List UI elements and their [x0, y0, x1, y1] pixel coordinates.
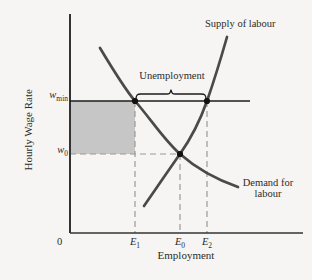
y-tick-w-min-subscript: min [56, 94, 68, 103]
demand-curve-label-line1: Demand for [243, 177, 293, 188]
origin-label: 0 [57, 236, 62, 247]
chart-plot-area [0, 0, 312, 280]
x-tick-e0-subscript: 0 [181, 241, 185, 250]
wage-gain-shaded-area [70, 101, 135, 154]
quantity-supplied-point-marker [204, 98, 210, 104]
x-tick-e1-subscript: 1 [136, 241, 140, 250]
x-axis-title: Employment [148, 250, 224, 262]
supply-curve-label: Supply of labour [205, 18, 276, 29]
y-tick-label-w-min: wmin [40, 89, 68, 103]
unemployment-label: Unemployment [135, 70, 209, 81]
x-tick-label-e0: E0 [171, 236, 189, 250]
equilibrium-point-marker [177, 151, 183, 157]
y-tick-label-w-0: w0 [40, 144, 68, 158]
supply-of-labour-curve [144, 37, 227, 206]
unemployment-brace [136, 90, 206, 100]
x-tick-label-e2: E2 [198, 236, 216, 250]
quantity-demanded-point-marker [132, 98, 138, 104]
x-tick-e2-subscript: 2 [208, 241, 212, 250]
x-tick-label-e1: E1 [126, 236, 144, 250]
minimum-wage-labour-market-chart: Hourly Wage Rate Employment Supply of la… [0, 0, 312, 280]
demand-curve-label-line2: labour [255, 188, 282, 199]
y-tick-w-0-subscript: 0 [64, 149, 68, 158]
demand-curve-label: Demand for labour [239, 177, 297, 199]
y-axis-title: Hourly Wage Rate [23, 72, 35, 188]
